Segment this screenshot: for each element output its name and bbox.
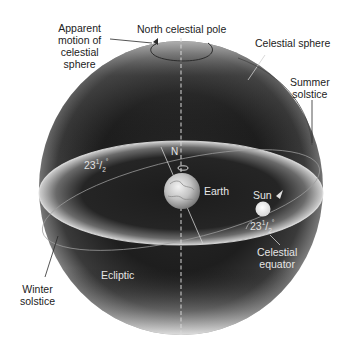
celestial-equator-label: Celestial equator xyxy=(257,246,297,270)
summer-solstice-line-2: solstice xyxy=(290,88,330,100)
north-marker-label: N xyxy=(171,146,178,158)
sun-label: Sun xyxy=(253,189,272,201)
angle-left-num: 1 xyxy=(96,158,100,165)
celestial-equator-line-2: equator xyxy=(257,258,297,270)
obliquity-angle-left: 231/2° xyxy=(84,158,108,173)
summer-solstice-label: Summer solstice xyxy=(290,76,330,100)
angle-right-degree: ° xyxy=(272,219,275,226)
apparent-motion-line-2: motion of xyxy=(58,34,101,46)
angle-right-num: 1 xyxy=(262,219,266,226)
winter-solstice-line-1: Winter xyxy=(20,283,55,295)
earth-globe xyxy=(164,173,200,209)
north-celestial-pole-label: North celestial pole xyxy=(137,23,226,35)
apparent-motion-label: Apparent motion of celestial sphere xyxy=(58,22,101,70)
earth-label: Earth xyxy=(204,185,229,197)
angle-left-den: 2 xyxy=(102,166,106,173)
winter-solstice-line-2: solstice xyxy=(20,295,55,307)
summer-solstice-line-1: Summer xyxy=(290,76,330,88)
apparent-motion-line-4: sphere xyxy=(58,58,101,70)
apparent-motion-line-1: Apparent xyxy=(58,22,101,34)
angle-right-den: 2 xyxy=(268,227,272,234)
ecliptic-label: Ecliptic xyxy=(101,269,134,281)
celestial-sphere-label: Celestial sphere xyxy=(255,37,330,49)
celestial-equator-line-1: Celestial xyxy=(257,246,297,258)
obliquity-angle-right: 231/2° xyxy=(250,219,274,234)
apparent-motion-line-3: celestial xyxy=(58,46,101,58)
winter-solstice-label: Winter solstice xyxy=(20,283,55,307)
angle-left-value: 23 xyxy=(84,159,96,171)
sun-disc xyxy=(256,202,271,217)
angle-left-degree: ° xyxy=(106,158,109,165)
angle-right-value: 23 xyxy=(250,220,262,232)
